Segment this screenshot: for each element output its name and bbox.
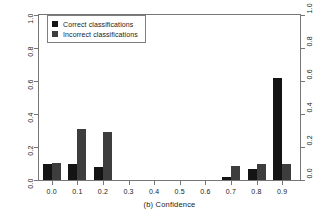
legend-swatch-icon	[52, 31, 58, 37]
y-tick-right	[301, 180, 305, 181]
bar-correct-0.7	[222, 177, 231, 180]
x-tick-label: 0.6	[193, 188, 217, 195]
x-tick	[129, 181, 130, 185]
y-tick-right	[301, 114, 305, 115]
x-tick-label: 0.4	[142, 188, 166, 195]
y-tick-right	[301, 81, 305, 82]
bar-correct-0.2	[94, 167, 103, 180]
y-tick-label-left: 0.4	[27, 113, 34, 135]
x-tick-label: 0.2	[91, 188, 115, 195]
y-tick-right	[301, 15, 305, 16]
y-tick-label-right: 0.2	[306, 124, 313, 146]
x-axis-title: (b) Confidence	[38, 200, 301, 209]
y-tick-label-right: 0.6	[306, 58, 313, 80]
y-tick-label-right: 0.4	[306, 91, 313, 113]
y-tick-label-right: 1.0	[306, 0, 313, 14]
bar-incorrect-0.0	[52, 163, 61, 180]
x-tick	[154, 181, 155, 185]
bar-incorrect-0.2	[103, 132, 112, 180]
y-tick-label-left: 0.8	[27, 47, 34, 69]
x-tick-label: 0.8	[245, 188, 269, 195]
x-tick	[231, 181, 232, 185]
x-tick	[205, 181, 206, 185]
x-tick	[77, 181, 78, 185]
y-tick-label-left: 0.0	[27, 179, 34, 201]
x-tick-label: 0.7	[219, 188, 243, 195]
bar-correct-0.8	[248, 169, 257, 180]
x-tick	[180, 181, 181, 185]
bar-incorrect-0.7	[231, 166, 240, 180]
bar-incorrect-0.1	[77, 129, 86, 180]
bar-incorrect-0.8	[257, 164, 266, 181]
legend-item: Incorrect classifications	[52, 29, 138, 39]
y-tick-right	[301, 147, 305, 148]
x-tick	[257, 181, 258, 185]
x-tick	[52, 181, 53, 185]
x-tick-label: 0.0	[40, 188, 64, 195]
chart-legend: Correct classificationsIncorrect classif…	[47, 15, 146, 43]
y-tick-label-left: 1.0	[27, 14, 34, 36]
y-tick-label-right: 0.8	[306, 25, 313, 47]
y-tick-right	[301, 48, 305, 49]
legend-item: Correct classifications	[52, 19, 138, 29]
x-tick-label: 0.3	[117, 188, 141, 195]
y-tick-label-left: 0.2	[27, 146, 34, 168]
bar-incorrect-0.9	[282, 164, 291, 181]
bar-correct-0.1	[68, 164, 77, 181]
legend-swatch-icon	[52, 21, 58, 27]
x-tick-label: 0.9	[270, 188, 294, 195]
bar-correct-0.0	[43, 164, 52, 181]
x-tick-label: 0.5	[168, 188, 192, 195]
x-tick-label: 0.1	[65, 188, 89, 195]
bar-correct-0.9	[273, 78, 282, 180]
y-tick-label-left: 0.6	[27, 80, 34, 102]
x-tick	[282, 181, 283, 185]
legend-label: Correct classifications	[63, 21, 133, 28]
y-tick-label-right: 0.0	[306, 157, 313, 179]
x-tick	[103, 181, 104, 185]
chart-figure: Relative frequency 0.00.20.40.60.81.0 0.…	[0, 0, 335, 219]
legend-label: Incorrect classifications	[63, 31, 138, 38]
